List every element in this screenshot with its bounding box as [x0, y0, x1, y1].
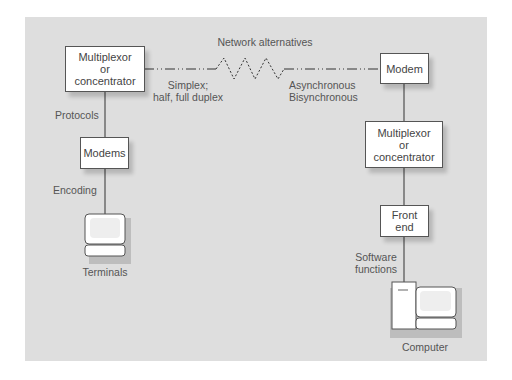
modem-box: Modem: [380, 53, 429, 84]
encoding-label: Encoding: [53, 184, 97, 196]
front-end-line1: Front: [392, 209, 418, 221]
right-multiplexor-box: Multiplexor or concentrator: [365, 121, 443, 168]
left-multiplexor-box: Multiplexor or concentrator: [65, 46, 145, 92]
network-zigzag: [216, 58, 284, 79]
front-end-line2: end: [395, 221, 413, 233]
simplex-label: Simplex; half, full duplex: [148, 79, 228, 103]
right-mux-line3: concentrator: [373, 151, 434, 163]
computer-icon: [390, 282, 462, 338]
network-alternatives-title: Network alternatives: [210, 36, 320, 48]
right-mux-line2: or: [399, 139, 409, 151]
right-mux-line1: Multiplexor: [377, 127, 430, 139]
software-functions-label: Software functions: [348, 251, 404, 275]
protocols-label: Protocols: [55, 109, 99, 121]
async-label: Asynchronous Bisynchronous: [289, 79, 358, 103]
modem-label: Modem: [386, 63, 423, 75]
modems-label: Modems: [83, 147, 125, 159]
terminals-label: Terminals: [75, 266, 135, 278]
computer-label: Computer: [395, 341, 455, 353]
left-mux-line3: concentrator: [74, 75, 135, 87]
modems-box: Modems: [80, 137, 129, 169]
left-mux-line1: Multiplexor: [78, 51, 131, 63]
front-end-box: Front end: [380, 205, 429, 237]
terminal-icon: [85, 214, 131, 264]
left-mux-line2: or: [100, 63, 110, 75]
